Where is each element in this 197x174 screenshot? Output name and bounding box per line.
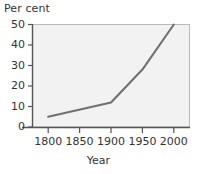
x-tick-label: 2000 xyxy=(154,136,194,147)
x-tick-marks xyxy=(48,128,174,134)
line-chart: Per cent 01020304050 1800185019001950200… xyxy=(0,0,197,174)
y-tick-label: 0 xyxy=(1,121,25,132)
y-tick-label: 40 xyxy=(1,39,25,50)
y-tick-label: 30 xyxy=(1,60,25,71)
y-tick-label: 20 xyxy=(1,80,25,91)
y-tick-label: 50 xyxy=(1,19,25,30)
plot-background xyxy=(33,25,190,128)
y-tick-label: 10 xyxy=(1,101,25,112)
x-axis-label: Year xyxy=(0,154,197,167)
